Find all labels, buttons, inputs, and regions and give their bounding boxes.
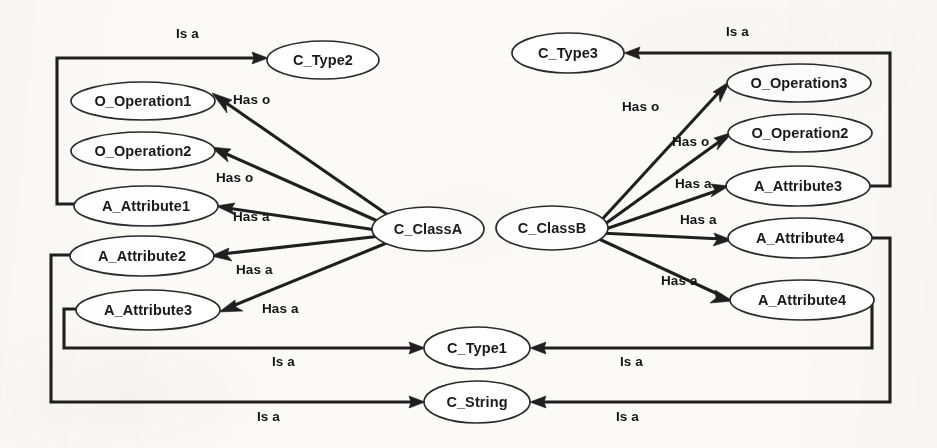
node-o-operation2-left[interactable]: O_Operation2 (71, 132, 215, 170)
edge-label: Has a (233, 209, 270, 224)
edge-label: Is a (272, 354, 295, 369)
node-a-attribute1[interactable]: A_Attribute1 (74, 186, 218, 226)
node-c-string[interactable]: C_String (424, 381, 530, 423)
edge-has-a-classa-attribute2 (211, 235, 390, 261)
edge-has-a-classb-attribute4-b (599, 239, 733, 303)
node-c-classb[interactable]: C_ClassB (496, 206, 608, 250)
edge-is-a-attribute2-string (51, 255, 425, 408)
node-c-type1[interactable]: C_Type1 (424, 327, 530, 369)
node-label: O_Operation3 (750, 75, 847, 91)
edge-label: Has o (622, 99, 659, 114)
node-c-type3[interactable]: C_Type3 (512, 33, 624, 73)
edge-label: Is a (726, 24, 749, 39)
node-label: A_Attribute4 (756, 230, 844, 246)
edge-label: Has a (262, 301, 299, 316)
edge-label: Is a (616, 409, 639, 424)
node-a-attribute4-lower[interactable]: A_Attribute4 (730, 280, 874, 320)
node-label: O_Operation2 (94, 143, 191, 159)
node-o-operation3[interactable]: O_Operation3 (727, 64, 871, 102)
node-c-classa[interactable]: C_ClassA (372, 207, 484, 251)
edge-label: Has o (233, 92, 270, 107)
node-label: A_Attribute3 (104, 302, 192, 318)
node-label: A_Attribute2 (98, 248, 186, 264)
node-a-attribute3-right[interactable]: A_Attribute3 (726, 166, 870, 206)
edge-label: Has a (236, 262, 273, 277)
node-label: A_Attribute1 (102, 198, 190, 214)
node-label: C_Type2 (293, 52, 353, 68)
edge-has-o-classa-operation1 (212, 93, 398, 222)
node-a-attribute2[interactable]: A_Attribute2 (70, 236, 214, 276)
edge-label: Is a (620, 354, 643, 369)
node-label: O_Operation2 (751, 125, 848, 141)
diagram-canvas: Is a Has o Has o Has a Has a Has a Is a … (0, 0, 937, 448)
diagram-svg: Is a Has o Has o Has a Has a Has a Is a … (0, 0, 937, 448)
edge-has-o-classb-operation3 (596, 81, 730, 226)
edge-is-a-attribute4a-string (530, 238, 890, 408)
edge-label: Has a (661, 273, 698, 288)
node-o-operation2-right[interactable]: O_Operation2 (728, 114, 872, 152)
node-label: C_ClassA (394, 221, 463, 237)
edge-label: Has a (680, 212, 717, 227)
edge-has-a-classb-attribute4-a (600, 233, 732, 246)
edge-label: Is a (257, 409, 280, 424)
node-label: C_ClassB (518, 220, 587, 236)
node-a-attribute4-upper[interactable]: A_Attribute4 (728, 218, 872, 258)
edge-label: Has o (216, 170, 253, 185)
edge-label: Has o (672, 134, 709, 149)
node-label: C_Type3 (538, 45, 598, 61)
node-a-attribute3-left[interactable]: A_Attribute3 (76, 290, 220, 330)
edge-label: Has a (675, 176, 712, 191)
node-label: O_Operation1 (94, 93, 191, 109)
node-label: A_Attribute4 (758, 292, 846, 308)
node-label: C_Type1 (447, 340, 507, 356)
node-label: C_String (446, 394, 507, 410)
node-layer: C_Type2 O_Operation1 O_Operation2 A_Attr… (70, 33, 874, 423)
edge-label: Is a (176, 26, 199, 41)
node-o-operation1[interactable]: O_Operation1 (71, 82, 215, 120)
node-c-type2[interactable]: C_Type2 (267, 41, 379, 79)
node-label: A_Attribute3 (754, 178, 842, 194)
